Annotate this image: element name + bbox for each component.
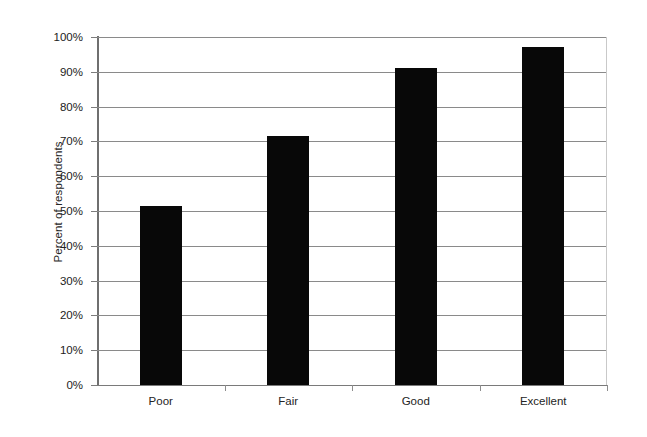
- x-axis-tick-label: Poor: [101, 395, 221, 407]
- y-axis-tick-mark: [91, 107, 97, 108]
- y-axis-tick-label: 80%: [37, 101, 83, 113]
- y-axis-tick-mark: [91, 315, 97, 316]
- y-axis-tick-mark: [91, 385, 97, 386]
- plot-right-edge: [606, 37, 607, 386]
- bar: [140, 206, 182, 385]
- y-axis-tick-label: 90%: [37, 66, 83, 78]
- y-axis-tick-labels: 100%90%80%70%60%50%40%30%20%10%0%: [37, 0, 83, 437]
- bar: [267, 136, 309, 385]
- y-axis-tick-mark: [91, 211, 97, 212]
- gridline: [97, 37, 607, 38]
- x-axis-tick-label: Good: [356, 395, 476, 407]
- x-axis-separator-tick: [607, 385, 608, 391]
- y-axis-tick-mark: [91, 281, 97, 282]
- bar-chart: Percent of respondents 100%90%80%70%60%5…: [0, 0, 647, 437]
- y-axis-tick-label: 20%: [37, 309, 83, 321]
- x-axis-separator-tick: [225, 385, 226, 391]
- plot-area: [97, 37, 607, 385]
- x-axis-separator-tick: [352, 385, 353, 391]
- y-axis-tick-mark: [91, 72, 97, 73]
- y-axis-tick-label: 70%: [37, 135, 83, 147]
- y-axis-tick-mark: [91, 246, 97, 247]
- y-axis-tick-label: 40%: [37, 240, 83, 252]
- y-axis-tick-mark: [91, 141, 97, 142]
- bar: [522, 47, 564, 385]
- y-axis-tick-mark: [91, 37, 97, 38]
- y-axis-tick-mark: [91, 176, 97, 177]
- x-axis-separator-tick: [480, 385, 481, 391]
- x-axis-tick-label: Excellent: [483, 395, 603, 407]
- y-axis-tick-label: 100%: [37, 31, 83, 43]
- bar: [395, 68, 437, 385]
- y-axis-tick-label: 60%: [37, 170, 83, 182]
- y-axis-tick-label: 10%: [37, 344, 83, 356]
- y-axis-tick-label: 0%: [37, 379, 83, 391]
- x-axis-tick-label: Fair: [228, 395, 348, 407]
- y-axis-tick-label: 30%: [37, 275, 83, 287]
- y-axis-tick-mark: [91, 350, 97, 351]
- y-axis-tick-label: 50%: [37, 205, 83, 217]
